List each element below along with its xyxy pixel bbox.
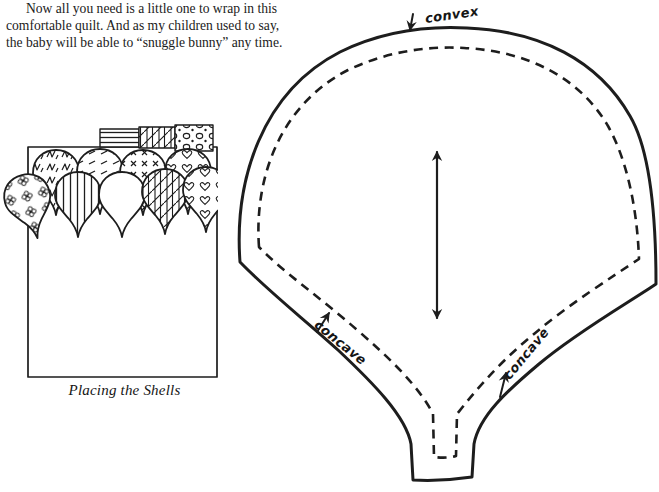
shell-hearts-edge [183,167,229,232]
page-illustrations [0,0,659,492]
shell-template-figure [239,14,656,480]
shell-vertical-stripes [55,172,101,237]
template-seam-dashed-line [258,48,639,458]
fabric-strip [100,125,213,151]
plaid-fabric-swatch [139,127,175,148]
figure-caption: Placing the Shells [52,382,197,399]
shell-plain [99,172,145,237]
shell-plaid [142,169,188,234]
shell-row [0,149,229,244]
book-page: Now all you need is a little one to wrap… [0,0,659,492]
placing-shells-figure [0,125,229,377]
template-cutting-outline [239,28,656,481]
circle-fabric-swatch [175,125,213,151]
convex-arrow-icon [410,14,413,30]
striped-fabric-swatch [100,129,139,147]
